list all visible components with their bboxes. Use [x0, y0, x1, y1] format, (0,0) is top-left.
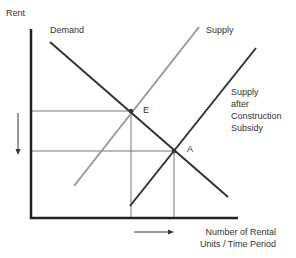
supply-curve — [74, 27, 199, 186]
point-e-label: E — [143, 105, 149, 116]
y-axis-label: Rent — [6, 8, 25, 19]
point-a-label: A — [187, 144, 193, 155]
supply-label: Supply — [206, 25, 234, 36]
quantity-increase-arrow-icon — [134, 230, 174, 235]
rent-decrease-arrow-icon — [16, 113, 21, 155]
demand-label: Demand — [50, 25, 84, 36]
supply-after-subsidy-label: Supply after Construction Subsidy — [231, 86, 282, 134]
point-e-marker — [129, 109, 133, 113]
point-a-marker — [172, 149, 176, 153]
demand-curve — [50, 42, 228, 197]
x-axis-label: Number of Rental Units / Time Period — [205, 226, 276, 250]
